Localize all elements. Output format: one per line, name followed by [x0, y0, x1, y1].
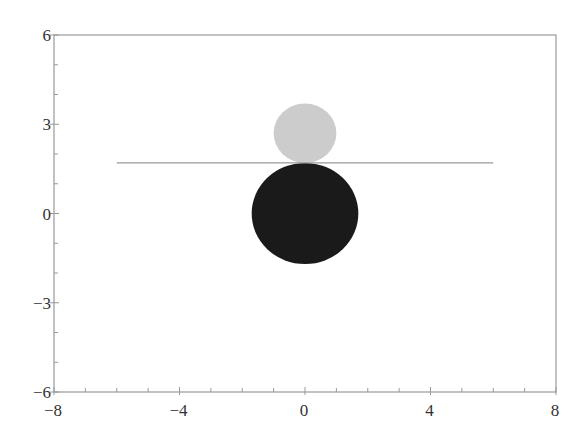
y-tick-label: 6 — [43, 26, 52, 45]
y-tick-label: −3 — [33, 294, 51, 313]
y-tick-label: 0 — [43, 205, 52, 224]
chart: −8−4048−6−3036 — [0, 0, 584, 440]
x-tick-label: −8 — [44, 401, 62, 420]
plot-shapes — [117, 103, 494, 264]
y-tick-label: 3 — [43, 115, 52, 134]
x-tick-label: 4 — [425, 401, 434, 420]
x-tick-label: 0 — [300, 401, 309, 420]
dark-circle — [252, 163, 359, 264]
x-tick-label: 8 — [551, 401, 560, 420]
light-circle — [274, 103, 337, 163]
x-tick-label: −4 — [169, 401, 188, 420]
y-tick-label: −6 — [33, 383, 51, 402]
